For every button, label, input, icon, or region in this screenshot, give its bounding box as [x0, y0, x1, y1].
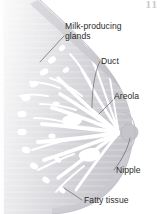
label-fatty-tissue: Fatty tissue: [84, 196, 129, 206]
page-marker: 11: [146, 0, 158, 10]
label-glands-line1: Milk-producing: [65, 21, 122, 31]
label-milk-producing-glands: Milk-producingglands: [65, 22, 122, 41]
label-glands-line2: glands: [65, 31, 91, 41]
label-nipple: Nipple: [116, 166, 141, 176]
label-areola: Areola: [114, 92, 139, 102]
label-duct: Duct: [101, 57, 119, 67]
